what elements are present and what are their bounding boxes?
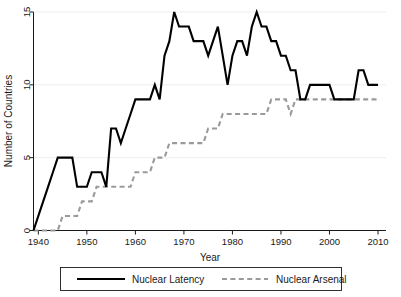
x-tick-label-1980: 1980: [222, 236, 243, 247]
x-tick-label-2010: 2010: [367, 236, 388, 247]
y-tick-label-10: 10: [21, 80, 32, 91]
y-tick-label-15: 15: [21, 7, 32, 18]
y-axis-title: Number of Countries: [3, 75, 14, 167]
legend: Nuclear Latency Nuclear Arsenal: [61, 268, 347, 291]
x-tick-label-1950: 1950: [76, 236, 97, 247]
x-tick-label-2000: 2000: [319, 236, 340, 247]
x-tick-label-1990: 1990: [270, 236, 291, 247]
y-tick-label-0: 0: [21, 228, 32, 233]
line-chart: 051015 19401950196019701980199020002010 …: [0, 0, 401, 297]
x-tick-label-1970: 1970: [173, 236, 194, 247]
x-axis-title: Year: [200, 252, 221, 263]
legend-label-nuclear-arsenal: Nuclear Arsenal: [276, 274, 347, 285]
legend-label-nuclear-latency: Nuclear Latency: [132, 274, 204, 285]
x-tick-label-1940: 1940: [28, 236, 49, 247]
x-tick-label-1960: 1960: [125, 236, 146, 247]
y-tick-label-5: 5: [21, 155, 32, 160]
chart-figure: 051015 19401950196019701980199020002010 …: [0, 0, 401, 297]
